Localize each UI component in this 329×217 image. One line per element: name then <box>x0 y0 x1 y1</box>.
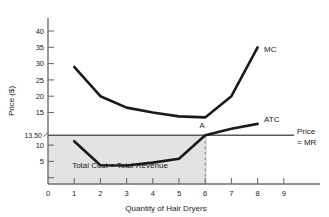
x-tick-label-4: 4 <box>151 189 155 198</box>
x-tick-label-8: 8 <box>256 189 260 198</box>
shaded-total-cost-region <box>48 135 207 184</box>
x-tick-label-3: 3 <box>125 189 129 198</box>
point-a-label: A <box>199 121 204 130</box>
x-tick-label-6: 6 <box>203 189 207 198</box>
x-tick-label-0: 0 <box>46 189 50 198</box>
x-tick-label-9: 9 <box>282 189 286 198</box>
y-tick-label-5: 5 <box>40 157 44 166</box>
x-tick-label-5: 5 <box>177 189 181 198</box>
y-axis-title: Price ($) <box>7 86 16 117</box>
price-mr-label-line1: Price <box>297 127 316 136</box>
mc-curve-label: MC <box>264 45 277 54</box>
mc-curve <box>74 47 257 117</box>
x-tick-label-1: 1 <box>72 189 76 198</box>
economics-cost-curve-chart: 40 35 30 25 20 15 10 5 13.50 0 1 2 3 4 5… <box>0 0 329 217</box>
price-mr-label-line2: = MR <box>297 138 317 147</box>
x-tick-label-7: 7 <box>229 189 233 198</box>
atc-curve-label: ATC <box>264 115 280 124</box>
y-tick-label-40: 40 <box>36 27 44 36</box>
x-tick-label-2: 2 <box>98 189 102 198</box>
x-axis-title: Quantity of Hair Dryers <box>125 204 206 213</box>
chart-canvas: 40 35 30 25 20 15 10 5 13.50 0 1 2 3 4 5… <box>0 0 329 217</box>
y-tick-label-25: 25 <box>36 76 44 85</box>
y-tick-label-35: 35 <box>36 43 44 52</box>
y-tick-label-20: 20 <box>36 92 44 101</box>
y-tick-label-13-50: 13.50 <box>24 132 42 139</box>
total-cost-revenue-label: Total Cost = Total Revenue <box>72 161 168 170</box>
y-tick-label-15: 15 <box>36 108 44 117</box>
y-tick-label-30: 30 <box>36 59 44 68</box>
y-tick-label-10: 10 <box>36 141 44 150</box>
